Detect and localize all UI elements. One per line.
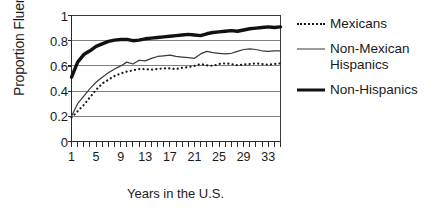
- x-axis-title: Years in the U.S.: [71, 186, 280, 201]
- legend-item-non-hispanics: Non-Hispanics: [296, 82, 437, 98]
- y-tick-label: 0.2: [38, 110, 68, 123]
- legend-label: Non-MexicanHispanics: [330, 41, 410, 73]
- x-tick-label: 33: [261, 151, 275, 164]
- y-tick-label: 1: [38, 9, 68, 22]
- chart-legend: MexicansNon-MexicanHispanicsNon-Hispanic…: [296, 16, 437, 107]
- legend-item-non-mexican-hispanics: Non-MexicanHispanics: [296, 41, 437, 73]
- x-tick-label: 1: [68, 151, 75, 164]
- series-line-2: [72, 27, 281, 77]
- legend-label: Non-Hispanics: [330, 82, 418, 98]
- y-axis-tick-labels: 10.80.60.40.20: [34, 0, 68, 215]
- legend-swatch-icon: [296, 82, 326, 98]
- y-axis-title: Proportion Fluent: [11, 0, 27, 119]
- y-tick-label: 0: [38, 135, 68, 148]
- chart-figure: Proportion Fluent 10.80.60.40.20 1591317…: [0, 0, 437, 215]
- x-tick-label: 5: [93, 151, 100, 164]
- y-tick-label: 0.4: [38, 85, 68, 98]
- x-tick-label: 17: [163, 151, 177, 164]
- legend-swatch-icon: [296, 41, 326, 57]
- legend-label: Mexicans: [330, 16, 387, 32]
- x-tick-label: 9: [117, 151, 124, 164]
- x-tick-label: 29: [237, 151, 251, 164]
- x-tick-label: 25: [212, 151, 226, 164]
- y-tick-label: 0.8: [38, 34, 68, 47]
- x-tick-label: 21: [187, 151, 201, 164]
- legend-swatch-icon: [296, 16, 326, 32]
- x-tick-label: 13: [138, 151, 152, 164]
- legend-item-mexicans: Mexicans: [296, 16, 437, 32]
- series-line-0: [72, 63, 281, 117]
- y-tick-label: 0.6: [38, 59, 68, 72]
